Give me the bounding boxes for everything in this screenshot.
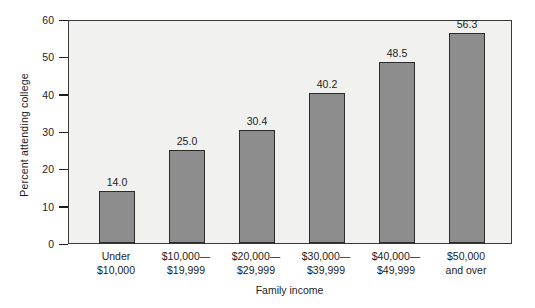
bar-value-label: 30.4: [227, 115, 287, 127]
bar-value-label: 56.3: [437, 18, 497, 30]
bar: [309, 93, 345, 243]
x-axis-category-line: and over: [421, 264, 511, 278]
x-axis-tick-mark: [204, 237, 205, 244]
bar: [99, 191, 135, 243]
x-axis-tick-mark: [484, 237, 485, 244]
plot-inner: 14.025.030.440.248.556.3: [69, 21, 511, 243]
x-axis-tick-mark: [239, 237, 240, 244]
x-axis-tick-mark: [449, 237, 450, 244]
y-axis-tick-label: 50: [42, 51, 54, 63]
bar-value-label: 14.0: [87, 176, 147, 188]
bar-value-label: 48.5: [367, 47, 427, 59]
plot-area: 14.025.030.440.248.556.3: [68, 20, 512, 244]
y-axis-tick: 10: [30, 201, 68, 213]
y-axis-tick: 0: [30, 238, 68, 250]
y-axis-tick-mark: [59, 244, 68, 245]
y-axis-tick-label: 30: [42, 126, 54, 138]
y-axis-tick-label: 0: [48, 238, 54, 250]
x-axis-tick-mark: [414, 237, 415, 244]
x-axis-tick-mark: [274, 237, 275, 244]
bar-chart-figure: Percent attending college 0102030405060 …: [0, 0, 535, 308]
x-axis-tick-mark: [379, 237, 380, 244]
y-axis-tick: 20: [30, 163, 68, 175]
x-axis-tick-mark: [169, 237, 170, 244]
x-axis-tick-mark: [344, 237, 345, 244]
x-axis-category-label: $50,000and over: [421, 250, 511, 277]
y-axis-tick-mark: [59, 57, 68, 58]
y-axis-tick-mark: [59, 132, 68, 133]
bar: [169, 150, 205, 243]
y-axis-tick-label: 20: [42, 163, 54, 175]
x-axis-title-text: Family income: [256, 284, 324, 296]
bar: [449, 33, 485, 243]
y-axis-tick-mark: [59, 94, 68, 95]
y-axis-tick-mark: [59, 206, 68, 207]
x-axis-tick-mark: [134, 237, 135, 244]
bar-value-label: 40.2: [297, 78, 357, 90]
y-axis-tick: 50: [30, 51, 68, 63]
y-axis-tick-label: 40: [42, 89, 54, 101]
x-axis-category-line: $50,000: [421, 250, 511, 264]
bar: [239, 130, 275, 243]
y-axis-ticks: 0102030405060: [30, 0, 68, 308]
y-axis-tick-mark: [59, 169, 68, 170]
y-axis-tick-label: 10: [42, 201, 54, 213]
y-axis-tick: 60: [30, 14, 68, 26]
bar: [379, 62, 415, 243]
bar-value-label: 25.0: [157, 135, 217, 147]
x-axis-tick-mark: [309, 237, 310, 244]
x-axis-title: Family income: [0, 284, 535, 296]
x-axis-tick-mark: [99, 237, 100, 244]
y-axis-tick: 40: [30, 89, 68, 101]
y-axis-tick-mark: [59, 20, 68, 21]
y-axis-tick-label: 60: [42, 14, 54, 26]
y-axis-tick: 30: [30, 126, 68, 138]
